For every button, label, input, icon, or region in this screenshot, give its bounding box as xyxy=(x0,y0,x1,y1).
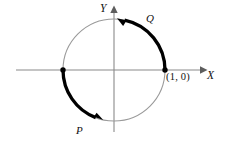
arc-to-p-path xyxy=(63,70,96,118)
arc-p-label: P xyxy=(76,125,83,136)
y-axis-label: Y xyxy=(100,3,106,15)
arc-q-label: Q xyxy=(146,13,154,24)
point-one-zero-label: (1, 0) xyxy=(166,72,190,83)
endpoint-dot-minus-one-zero xyxy=(60,67,65,72)
arc-to-q-path xyxy=(125,20,165,70)
figure-canvas: Y X Q P (1, 0) xyxy=(0,0,232,143)
unit-circle-diagram xyxy=(0,0,232,143)
y-axis-arrowhead-icon xyxy=(110,6,117,14)
x-axis-label: X xyxy=(207,70,214,82)
